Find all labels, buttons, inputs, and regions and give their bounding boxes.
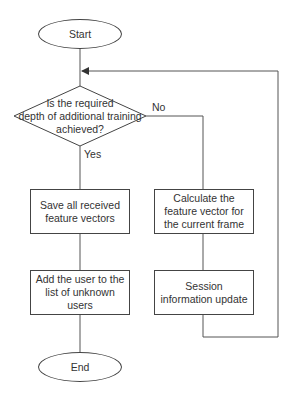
decision-line-1: Is the required (14, 97, 146, 110)
decision-line-2: depth of additional training (14, 110, 146, 123)
session-update-process: Session information update (154, 270, 254, 315)
add-user-process: Add the user to the list of unknown user… (30, 270, 130, 315)
calculate-vector-process: Calculate the feature vector for the cur… (154, 189, 254, 234)
session-update-label: Session information update (158, 280, 250, 306)
yes-label: Yes (84, 148, 101, 160)
decision-text: Is the required depth of additional trai… (14, 97, 146, 136)
save-vectors-process: Save all received feature vectors (30, 189, 130, 234)
start-terminator: Start (38, 19, 122, 49)
start-label: Start (69, 28, 91, 41)
save-vectors-label: Save all received feature vectors (34, 199, 126, 225)
decision-line-3: achieved? (14, 123, 146, 136)
add-user-label: Add the user to the list of unknown user… (34, 273, 126, 312)
no-label: No (152, 101, 165, 113)
edge-no (146, 116, 203, 189)
end-label: End (71, 361, 90, 374)
end-terminator: End (38, 352, 122, 382)
calculate-vector-label: Calculate the feature vector for the cur… (158, 192, 250, 231)
